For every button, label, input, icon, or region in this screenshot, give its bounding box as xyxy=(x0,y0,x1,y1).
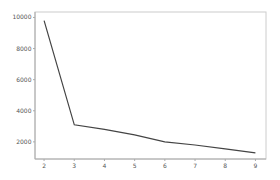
x-tick-label: 8 xyxy=(223,162,227,169)
data-line xyxy=(44,21,255,153)
line-chart: 200040006000800010000 23456789 xyxy=(0,0,280,180)
y-tick-label: 2000 xyxy=(16,138,31,145)
y-tick-label: 10000 xyxy=(12,13,31,20)
x-tick-label: 9 xyxy=(254,162,258,169)
x-axis: 23456789 xyxy=(42,159,257,169)
plot-frame xyxy=(35,12,266,159)
x-tick-label: 5 xyxy=(133,162,137,169)
x-tick-label: 4 xyxy=(103,162,107,169)
x-tick-label: 2 xyxy=(42,162,46,169)
y-axis: 200040006000800010000 xyxy=(12,13,35,144)
x-tick-label: 3 xyxy=(72,162,76,169)
x-tick-label: 6 xyxy=(163,162,167,169)
y-tick-label: 8000 xyxy=(16,45,31,52)
y-tick-label: 4000 xyxy=(16,107,31,114)
x-tick-label: 7 xyxy=(193,162,197,169)
y-tick-label: 6000 xyxy=(16,76,31,83)
